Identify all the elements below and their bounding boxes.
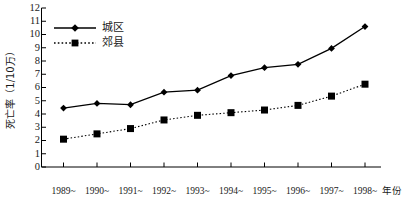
legend-item-urban: 城区 bbox=[52, 21, 138, 36]
x-tick-label: 1991~ bbox=[118, 186, 142, 196]
x-tick-label: 1994~ bbox=[219, 186, 243, 196]
x-tick-label: 1992~ bbox=[152, 186, 176, 196]
x-axis-title-label: 年份 bbox=[382, 186, 402, 196]
legend-marker-diamond-icon bbox=[52, 21, 98, 35]
legend-item-suburban: 郊县 bbox=[52, 36, 138, 51]
x-tick-label: 1998~ bbox=[353, 186, 377, 196]
legend-label-urban: 城区 bbox=[102, 21, 124, 35]
mortality-rate-line-chart: 死亡率（1/10万） 0123456789101112 年份 1989~1990… bbox=[0, 0, 402, 211]
legend-marker-square-icon bbox=[52, 36, 98, 50]
x-tick-label: 1989~ bbox=[51, 186, 75, 196]
x-tick-label: 1996~ bbox=[286, 186, 310, 196]
chart-legend: 城区 郊县 bbox=[52, 21, 138, 51]
legend-label-suburban: 郊县 bbox=[102, 36, 124, 50]
x-tick-label: 1997~ bbox=[319, 186, 343, 196]
x-tick-label: 1993~ bbox=[185, 186, 209, 196]
x-tick-label: 1990~ bbox=[85, 186, 109, 196]
x-tick-label: 1995~ bbox=[252, 186, 276, 196]
